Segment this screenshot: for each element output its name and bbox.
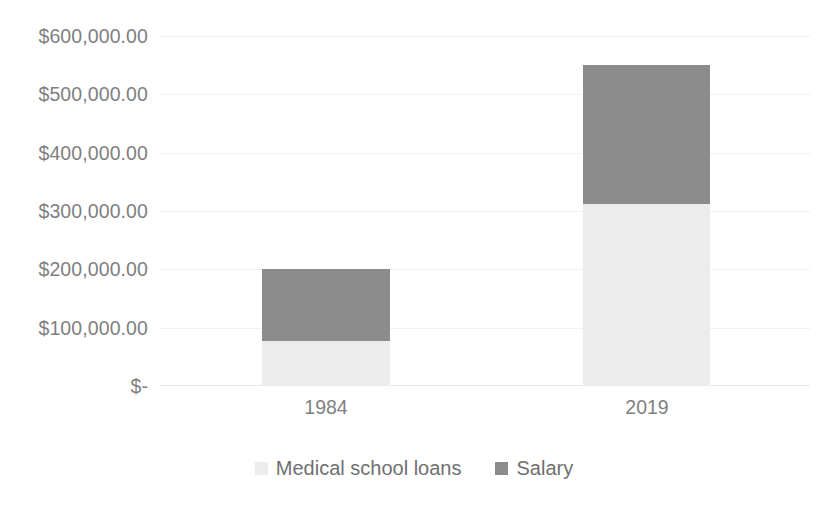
- y-axis-tick-label: $400,000.00: [0, 141, 148, 164]
- bar-segment-loans-1984[interactable]: [262, 341, 390, 386]
- gridline: [160, 328, 810, 329]
- y-axis: $600,000.00 $500,000.00 $400,000.00 $300…: [0, 30, 148, 386]
- legend-item-medical-school-loans[interactable]: Medical school loans: [255, 457, 462, 480]
- bar-group-2019: [583, 65, 710, 386]
- legend-item-salary[interactable]: Salary: [495, 457, 573, 480]
- y-axis-tick-label: $-: [0, 375, 148, 398]
- chart-legend: Medical school loans Salary: [0, 452, 828, 484]
- gridline: [160, 94, 810, 95]
- dark-gray-swatch-icon: [495, 462, 508, 475]
- y-axis-tick-label: $500,000.00: [0, 83, 148, 106]
- gridline: [160, 153, 810, 154]
- gridline: [160, 211, 810, 212]
- x-axis: 1984 2019: [160, 396, 810, 430]
- bar-segment-loans-2019[interactable]: [583, 204, 710, 386]
- y-axis-tick-label: $100,000.00: [0, 316, 148, 339]
- y-axis-tick-label: $300,000.00: [0, 200, 148, 223]
- stacked-bar-chart: $600,000.00 $500,000.00 $400,000.00 $300…: [0, 0, 828, 511]
- gridline: [160, 36, 810, 37]
- axis-baseline: [160, 385, 810, 386]
- legend-label: Medical school loans: [276, 457, 462, 480]
- x-axis-tick-label-1984: 1984: [304, 396, 347, 419]
- plot-area: [160, 30, 810, 386]
- bar-segment-salary-1984[interactable]: [262, 269, 390, 341]
- light-gray-swatch-icon: [255, 462, 268, 475]
- y-axis-tick-label: $600,000.00: [0, 25, 148, 48]
- y-axis-tick-label: $200,000.00: [0, 258, 148, 281]
- gridline: [160, 269, 810, 270]
- bar-group-1984: [262, 269, 390, 386]
- x-axis-tick-label-2019: 2019: [625, 396, 668, 419]
- legend-label: Salary: [516, 457, 573, 480]
- bar-segment-salary-2019[interactable]: [583, 65, 710, 204]
